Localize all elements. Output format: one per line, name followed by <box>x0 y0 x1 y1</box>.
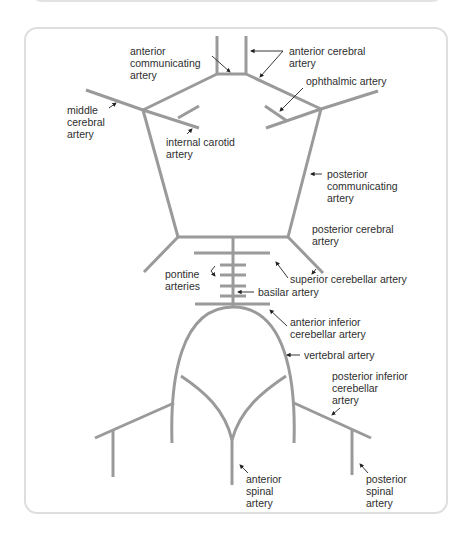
internal-carotid-left <box>143 110 199 128</box>
label-pontine: pontine arteries <box>165 268 202 292</box>
label-ophthalmic: ophthalmic artery <box>306 75 387 87</box>
ophthalmic <box>265 106 287 121</box>
label-posterior-communicating: posterior communicating artery <box>327 168 401 204</box>
posterior-inferior-cerebellar-right <box>294 403 371 438</box>
posterior-communicating-left <box>143 110 178 237</box>
vessels <box>86 36 378 485</box>
artery-diagram: anterior communicating artery anterior c… <box>0 0 473 543</box>
label-posterior-cerebral: posterior cerebral artery <box>312 223 397 247</box>
label-anterior-spinal: anterior spinal artery <box>246 473 285 509</box>
vertebral <box>172 307 294 443</box>
posterior-cerebral-left <box>144 237 178 272</box>
posterior-inferior-cerebellar-left <box>95 403 174 438</box>
label-posterior-inferior-cerebellar: posterior inferior cerebellar artery <box>332 370 411 406</box>
middle-cerebral-right <box>321 91 378 109</box>
label-anterior-communicating: anterior communicating artery <box>130 45 204 81</box>
label-anterior-cerebral: anterior cerebral artery <box>289 45 368 69</box>
label-vertebral: vertebral artery <box>304 349 375 361</box>
leaders <box>109 51 368 473</box>
label-middle-cerebral: middle cerebral artery <box>67 104 108 140</box>
label-anterior-inferior-cerebellar: anterior inferior cerebellar artery <box>290 316 367 340</box>
label-posterior-spinal: posterior spinal artery <box>366 473 410 509</box>
label-internal-carotid: internal carotid artery <box>166 136 238 160</box>
labels: anterior communicating artery anterior c… <box>67 45 411 509</box>
label-basilar: basilar artery <box>258 286 319 298</box>
posterior-communicating-right <box>288 109 321 237</box>
label-superior-cerebellar: superior cerebellar artery <box>290 273 407 285</box>
